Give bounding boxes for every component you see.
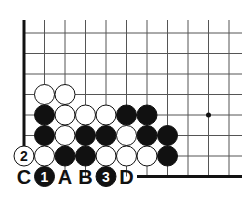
point-label-a: A — [58, 166, 72, 188]
black-stone — [35, 105, 55, 125]
white-stone — [35, 146, 55, 166]
black-stone — [158, 146, 178, 166]
black-stone — [137, 126, 157, 146]
move-number: 3 — [102, 169, 110, 185]
point-label-d: D — [119, 166, 133, 188]
black-stone — [76, 146, 96, 166]
black-stone — [55, 146, 75, 166]
black-stone — [137, 105, 157, 125]
white-stone — [117, 146, 137, 166]
black-stone — [35, 126, 55, 146]
white-stone — [35, 85, 55, 105]
move-3-black-stone: 3 — [96, 167, 116, 187]
white-stone — [55, 126, 75, 146]
white-stone — [117, 126, 137, 146]
move-2-white-stone: 2 — [14, 146, 34, 166]
white-stone — [137, 146, 157, 166]
white-stone — [96, 105, 116, 125]
black-stone — [96, 126, 116, 146]
go-board: 213 CABD — [0, 0, 250, 199]
stones-layer: 213 — [14, 85, 178, 187]
move-number: 2 — [20, 148, 28, 164]
move-number: 1 — [41, 169, 49, 185]
black-stone — [76, 126, 96, 146]
white-stone — [55, 85, 75, 105]
black-stone — [158, 126, 178, 146]
star-point-dot — [206, 113, 211, 118]
star-point — [206, 113, 211, 118]
white-stone — [55, 105, 75, 125]
move-1-black-stone: 1 — [35, 167, 55, 187]
point-label-b: B — [78, 166, 92, 188]
white-stone — [96, 146, 116, 166]
point-label-c: C — [17, 166, 31, 188]
white-stone — [76, 105, 96, 125]
black-stone — [117, 105, 137, 125]
